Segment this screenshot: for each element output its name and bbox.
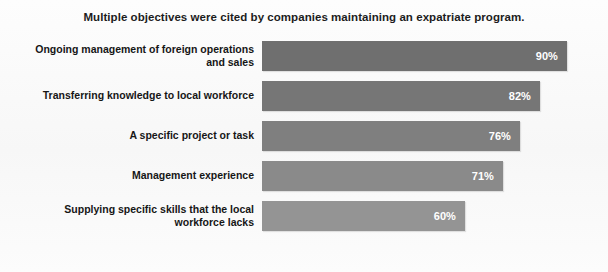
- bar-category-label: Ongoing management of foreign operations…: [8, 41, 254, 71]
- bar-fill: 82%: [262, 81, 540, 111]
- bar-category-label: A specific project or task: [8, 121, 254, 151]
- bar-value-label: 76%: [489, 130, 511, 142]
- bar-track: 82%: [262, 81, 540, 111]
- bar-value-label: 71%: [472, 170, 494, 182]
- bar-category-label: Transferring knowledge to local workforc…: [8, 81, 254, 111]
- bar-category-label: Management experience: [8, 161, 254, 191]
- bar-row: Supplying specific skills that the local…: [0, 201, 608, 231]
- bar-category-label-line: Transferring knowledge to local workforc…: [43, 89, 254, 103]
- bar-fill: 90%: [262, 41, 567, 71]
- bar-value-label: 82%: [509, 90, 531, 102]
- bar-row: Ongoing management of foreign operations…: [0, 41, 608, 71]
- bar-chart-figure: Multiple objectives were cited by compan…: [0, 0, 608, 272]
- bar-value-label: 90%: [536, 50, 558, 62]
- bar-fill: 71%: [262, 161, 503, 191]
- bar-category-label-line: Ongoing management of foreign operations: [35, 43, 254, 57]
- bar-category-label-line: A specific project or task: [130, 129, 255, 143]
- chart-title: Multiple objectives were cited by compan…: [0, 11, 608, 23]
- bar-track: 71%: [262, 161, 503, 191]
- bar-track: 76%: [262, 121, 520, 151]
- bar-track: 90%: [262, 41, 567, 71]
- bar-track: 60%: [262, 201, 465, 231]
- bar-row: Transferring knowledge to local workforc…: [0, 81, 608, 111]
- bar-fill: 60%: [262, 201, 465, 231]
- bar-fill: 76%: [262, 121, 520, 151]
- bar-row: Management experience 71%: [0, 161, 608, 191]
- bar-category-label-line: Supplying specific skills that the local: [64, 203, 254, 217]
- bar-category-label-line: workforce lacks: [175, 216, 254, 230]
- bar-chart-plot-area: Ongoing management of foreign operations…: [0, 41, 608, 241]
- bar-category-label-line: Management experience: [132, 169, 254, 183]
- bar-value-label: 60%: [434, 210, 456, 222]
- bar-category-label-line: and sales: [206, 56, 254, 70]
- bar-category-label: Supplying specific skills that the local…: [8, 201, 254, 231]
- bar-row: A specific project or task 76%: [0, 121, 608, 151]
